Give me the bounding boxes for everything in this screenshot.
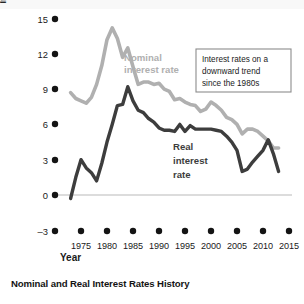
x-tick-label-2010: 2010 bbox=[253, 241, 273, 251]
x-tick-dot-2010 bbox=[260, 228, 266, 234]
y-tick-label-3: 3 bbox=[43, 155, 48, 166]
real-label-line1: Real bbox=[173, 141, 193, 152]
x-tick-dot-1985 bbox=[130, 228, 136, 234]
real-series-label: Real interest rate bbox=[173, 141, 208, 180]
real-label-line2: interest bbox=[173, 155, 208, 166]
x-tick-label-1995: 1995 bbox=[175, 241, 195, 251]
x-tick-label-1980: 1980 bbox=[97, 241, 117, 251]
x-tick-dot-2000 bbox=[208, 228, 214, 234]
y-tick-dot-15 bbox=[52, 16, 58, 22]
annotation-line-3: since the 1980s bbox=[202, 79, 259, 88]
line-chart-svg: 15 12 9 6 3 0 –3 19 bbox=[0, 9, 304, 259]
x-tick-dot-2005 bbox=[234, 228, 240, 234]
y-tick-dot-9 bbox=[52, 86, 58, 92]
figure-caption: Nominal and Real Interest Rates History bbox=[11, 278, 189, 289]
x-tick-dots bbox=[78, 228, 292, 234]
y-tick-dot-0 bbox=[52, 192, 58, 198]
y-axis-title: Interest rates (percent per year) bbox=[0, 0, 12, 32]
x-axis-title: Year bbox=[60, 252, 81, 263]
y-tick-label-6: 6 bbox=[43, 119, 48, 130]
annotation-line-1: Interest rates on a bbox=[202, 55, 268, 64]
x-tick-dot-1990 bbox=[156, 228, 162, 234]
x-tick-labels: 1975 1980 1985 1990 1995 2000 2005 2010 … bbox=[71, 241, 299, 251]
chart-plot-area: 15 12 9 6 3 0 –3 19 bbox=[0, 9, 304, 259]
x-tick-label-2015: 2015 bbox=[279, 241, 299, 251]
y-tick-dot-6 bbox=[52, 121, 58, 127]
nominal-series-label: Nominal interest rate bbox=[124, 52, 179, 75]
y-tick-dots bbox=[52, 16, 58, 234]
y-tick-dot-12 bbox=[52, 51, 58, 57]
nominal-label-line1: Nominal bbox=[124, 52, 162, 63]
y-tick-labels: 15 12 9 6 3 0 –3 bbox=[38, 14, 48, 237]
x-tick-dot-1995 bbox=[182, 228, 188, 234]
y-tick-label-9: 9 bbox=[43, 84, 48, 95]
x-tick-dot-1975 bbox=[78, 228, 84, 234]
y-tick-dot-3 bbox=[52, 157, 58, 163]
interest-rates-figure: 15 12 9 6 3 0 –3 19 bbox=[0, 0, 304, 304]
x-tick-dot-1980 bbox=[104, 228, 110, 234]
y-tick-label-neg3: –3 bbox=[38, 226, 48, 237]
x-tick-label-2000: 2000 bbox=[201, 241, 221, 251]
nominal-label-line2: interest rate bbox=[124, 64, 179, 75]
y-tick-label-15: 15 bbox=[38, 14, 48, 25]
y-tick-dot-neg3 bbox=[52, 228, 58, 234]
x-tick-label-1985: 1985 bbox=[123, 241, 143, 251]
scan-artifact-strip bbox=[0, 0, 304, 9]
real-label-line3: rate bbox=[173, 169, 191, 180]
y-tick-label-12: 12 bbox=[38, 49, 48, 60]
annotation-line-2: downward trend bbox=[202, 67, 261, 76]
x-tick-label-1975: 1975 bbox=[71, 241, 91, 251]
x-tick-label-2005: 2005 bbox=[227, 241, 247, 251]
x-tick-label-1990: 1990 bbox=[149, 241, 169, 251]
downward-trend-annotation: Interest rates on a downward trend since… bbox=[196, 49, 291, 92]
x-tick-dot-2015 bbox=[286, 228, 292, 234]
y-tick-label-0: 0 bbox=[43, 190, 48, 201]
